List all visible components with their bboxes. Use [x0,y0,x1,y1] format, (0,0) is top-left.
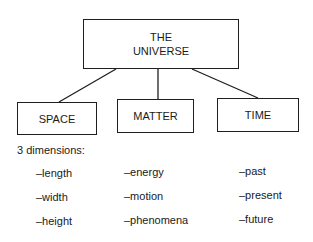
space-label: SPACE [39,112,75,126]
matter-box: MATTER [117,99,194,133]
matter-label: MATTER [133,109,177,123]
time-item-future: –future [239,213,273,226]
space-item-height: –height [36,215,72,228]
universe-box: THE UNIVERSE [83,19,239,69]
connector-time [192,69,258,98]
matter-item-energy: –energy [124,166,164,179]
matter-item-motion: –motion [124,190,163,203]
dimensions-note: 3 dimensions: [17,144,85,157]
space-item-width: –width [36,191,68,204]
space-item-length: –length [36,167,72,180]
space-box: SPACE [17,102,97,135]
matter-item-phenomena: –phenomena [124,214,188,227]
universe-label-line1: THE [133,30,189,44]
universe-label-line2: UNIVERSE [133,44,189,58]
time-item-past: –past [239,165,266,178]
time-item-present: –present [239,189,282,202]
time-box: TIME [217,98,299,132]
time-label: TIME [245,108,271,122]
connector-space [59,69,116,102]
